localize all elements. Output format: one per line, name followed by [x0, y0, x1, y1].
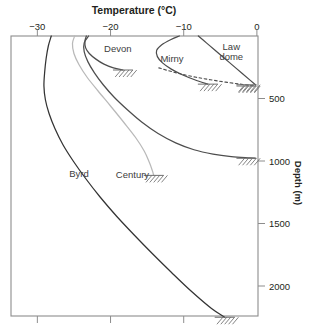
chart-title: Temperature (°C) [92, 4, 177, 16]
y-tick-label: 2000 [269, 281, 290, 292]
temperature-depth-chart: Temperature (°C) −30−20−100 500100015002… [0, 0, 313, 330]
y-tick-label: 1500 [269, 218, 290, 229]
series-label: Devon [104, 43, 131, 54]
series-label: dome [219, 51, 243, 62]
series-label: Century [116, 169, 150, 180]
y-tick-label: 1000 [269, 156, 290, 167]
series-label: Mirny [160, 53, 183, 64]
y-axis-title: Depth (m) [293, 161, 304, 205]
y-tick-label: 500 [269, 93, 285, 104]
series-label: Byrd [69, 168, 89, 179]
